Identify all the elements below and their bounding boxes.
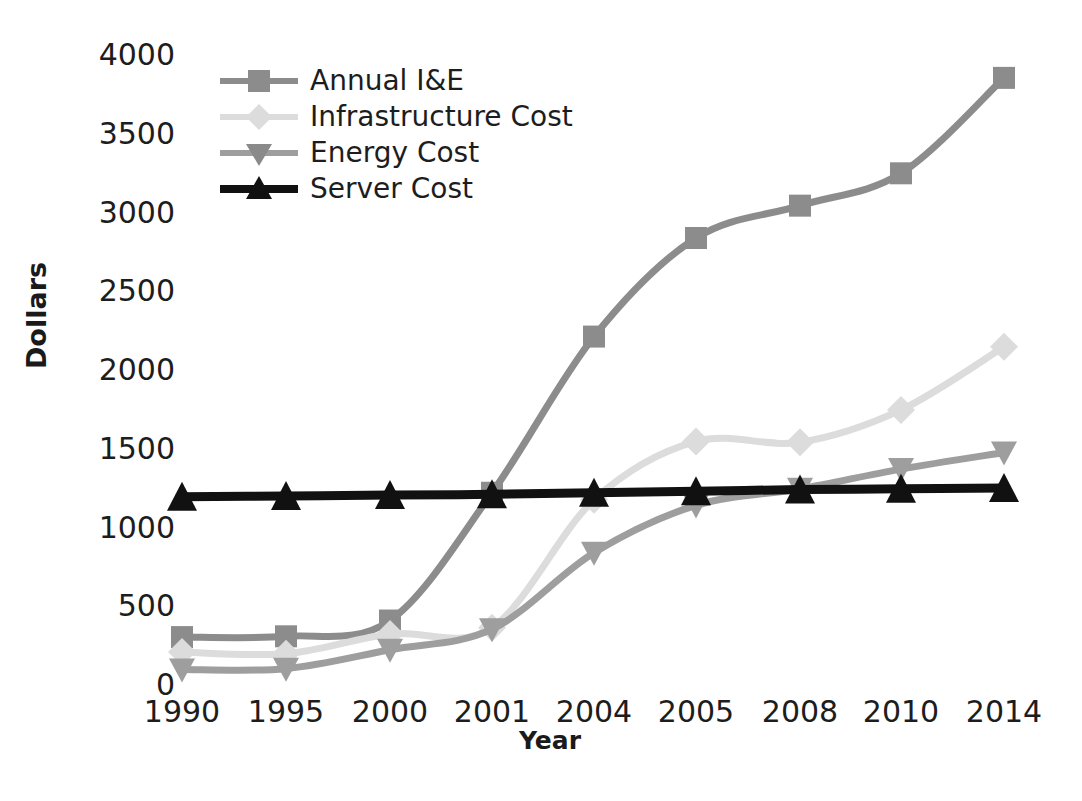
legend-swatch-diamond-icon xyxy=(218,101,300,133)
data-point-marker xyxy=(583,326,605,348)
data-point-marker xyxy=(993,67,1015,89)
legend-swatch-triangle-down-icon xyxy=(218,137,300,169)
series-server-cost xyxy=(167,473,1019,511)
chart-legend: Annual I&E Infrastructure Cost Energy Co… xyxy=(218,63,573,207)
legend-item-server-cost: Server Cost xyxy=(218,171,573,207)
legend-label: Energy Cost xyxy=(310,139,479,167)
legend-item-annual-ie: Annual I&E xyxy=(218,63,573,99)
data-point-marker xyxy=(682,427,710,455)
data-point-marker xyxy=(685,227,707,249)
legend-label: Server Cost xyxy=(310,175,473,203)
legend-swatch-square-icon xyxy=(218,65,300,97)
legend-item-infrastructure-cost: Infrastructure Cost xyxy=(218,99,573,135)
legend-label: Infrastructure Cost xyxy=(310,103,573,131)
legend-label: Annual I&E xyxy=(310,67,464,95)
data-point-marker xyxy=(786,428,814,456)
data-point-marker xyxy=(887,396,915,424)
legend-swatch-triangle-up-icon xyxy=(218,173,300,205)
data-point-marker xyxy=(789,195,811,217)
line-chart: Dollars 4000 3500 3000 2500 2000 1500 10… xyxy=(0,0,1082,801)
legend-item-energy-cost: Energy Cost xyxy=(218,135,573,171)
data-point-marker xyxy=(890,162,912,184)
